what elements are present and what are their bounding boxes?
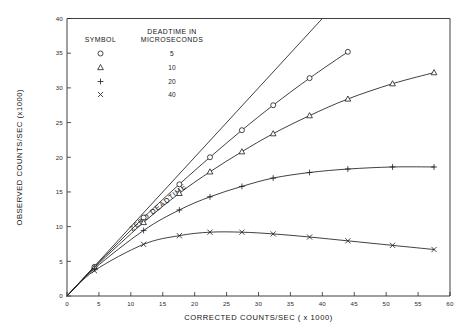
x-tick-label-35: 35 [287, 300, 295, 307]
y-tick-label-5: 5 [59, 258, 63, 265]
x-tick-label-30: 30 [255, 300, 263, 307]
x-tick-label-15: 15 [159, 300, 167, 307]
y-tick-label-0: 0 [59, 292, 63, 299]
legend-value-20us: 20 [168, 78, 176, 85]
legend-value-10us: 10 [168, 64, 176, 71]
x-tick-label-45: 45 [351, 300, 359, 307]
x-tick-label-60: 60 [446, 300, 454, 307]
x-axis-title: CORRECTED COUNTS/SEC ( x 1000) [184, 313, 333, 322]
x-tick-label-50: 50 [383, 300, 391, 307]
chart-canvas: ZERO DEADTIME 051015202530354045505560 0… [0, 0, 465, 329]
data-point-5us-8 [345, 49, 350, 54]
y-tick-label-35: 35 [56, 49, 64, 56]
x-tick-label-20: 20 [191, 300, 199, 307]
x-tick-label-10: 10 [127, 300, 135, 307]
y-tick-label-40: 40 [56, 15, 64, 22]
y-tick-label-15: 15 [56, 188, 64, 195]
y-tick-label-25: 25 [56, 119, 64, 126]
x-tick-label-25: 25 [223, 300, 231, 307]
legend-header-deadtime-line2: MICROSECONDS [141, 36, 203, 43]
data-point-5us-6 [271, 103, 276, 108]
deadtime-chart-figure: ZERO DEADTIME 051015202530354045505560 0… [0, 0, 465, 329]
legend-header-deadtime-line1: DEADTIME IN [147, 28, 196, 35]
y-tick-label-20: 20 [56, 154, 64, 161]
y-tick-label-30: 30 [56, 84, 64, 91]
data-point-5us-5 [239, 128, 244, 133]
legend-value-40us: 40 [168, 91, 176, 98]
data-point-5us-3 [177, 182, 182, 187]
data-point-5us-7 [307, 76, 312, 81]
y-axis-title: OBSERVED COUNTS/SEC (x1000) [15, 89, 24, 226]
legend-header-symbol: SYMBOL [85, 36, 116, 43]
x-tick-label-5: 5 [97, 300, 101, 307]
x-tick-label-55: 55 [414, 300, 422, 307]
data-point-5us-4 [207, 155, 212, 160]
legend-value-5us: 5 [170, 50, 174, 57]
x-tick-label-40: 40 [319, 300, 327, 307]
legend-symbol-circle-icon [98, 51, 103, 56]
chart-background [0, 0, 465, 329]
y-tick-label-10: 10 [56, 223, 64, 230]
x-tick-label-0: 0 [65, 300, 69, 307]
